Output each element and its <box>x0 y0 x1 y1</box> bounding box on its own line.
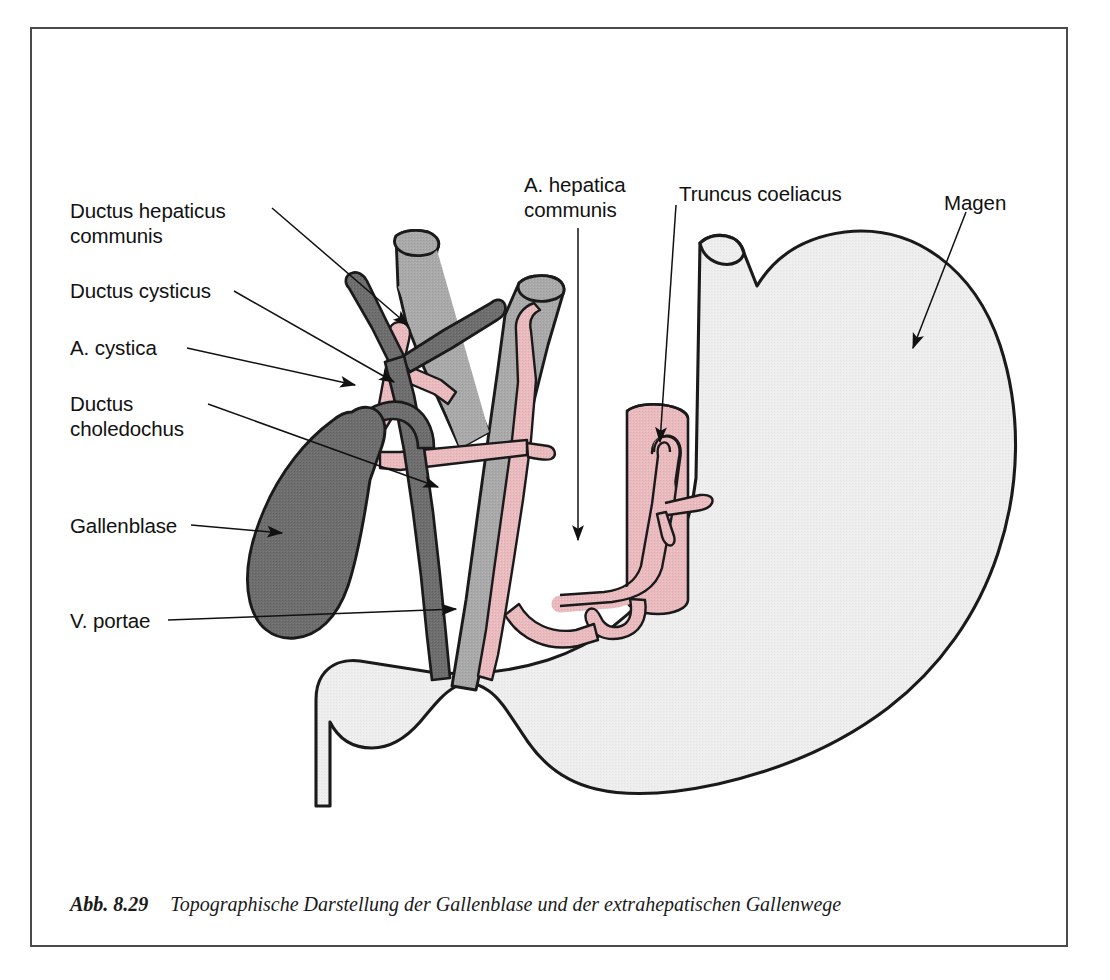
label-line1: Truncus coeliacus <box>679 182 842 205</box>
label-line1: Ductus cysticus <box>70 279 211 302</box>
label-line1: A. hepatica <box>524 173 625 196</box>
label-ductus-hepaticus-communis: Ductus hepaticus communis <box>70 198 226 248</box>
label-line1: Ductus <box>70 392 133 415</box>
label-line1: V. portae <box>70 609 150 632</box>
label-line2: communis <box>524 198 617 221</box>
figure-caption: Abb. 8.29Topographische Darstellung der … <box>70 893 1020 916</box>
leader-a-cystica <box>187 348 355 385</box>
label-ductus-choledochus: Ductus choledochus <box>70 391 184 441</box>
label-a-cystica: A. cystica <box>70 335 157 360</box>
label-gallenblase: Gallenblase <box>70 513 177 538</box>
label-a-hepatica-communis: A. hepatica communis <box>524 172 625 222</box>
label-truncus-coeliacus: Truncus coeliacus <box>679 181 842 206</box>
label-line1: Gallenblase <box>70 514 177 537</box>
anatomy-illustration <box>0 0 1110 980</box>
label-magen: Magen <box>944 190 1006 215</box>
figure-caption-text: Topographische Darstellung der Gallenbla… <box>170 893 841 915</box>
figure-number: Abb. 8.29 <box>70 893 148 915</box>
page: Ductus hepaticus communis Ductus cysticu… <box>0 0 1110 980</box>
label-line2: choledochus <box>70 417 184 440</box>
leader-ductus-hepaticus-communis <box>272 208 408 325</box>
label-line2: communis <box>70 224 163 247</box>
label-line1: Ductus hepaticus <box>70 199 226 222</box>
label-v-portae: V. portae <box>70 608 150 633</box>
label-ductus-cysticus: Ductus cysticus <box>70 278 211 303</box>
label-line1: A. cystica <box>70 336 157 359</box>
label-line1: Magen <box>944 191 1006 214</box>
